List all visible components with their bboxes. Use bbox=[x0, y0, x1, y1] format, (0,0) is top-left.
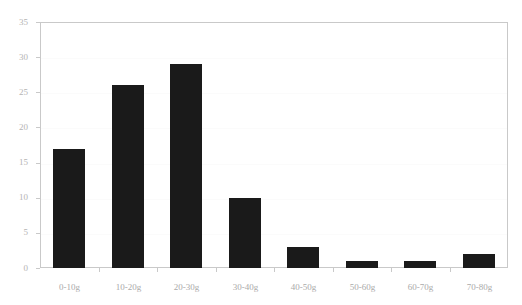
y-axis-tick-labels: 05101520253035 bbox=[0, 0, 36, 305]
gridline bbox=[41, 234, 507, 235]
gridline bbox=[41, 128, 507, 129]
x-axis-tick-mark bbox=[216, 268, 217, 272]
x-axis-tick-label: 10-20g bbox=[99, 283, 158, 292]
x-axis-tick-label: 40-50g bbox=[274, 283, 333, 292]
gridline bbox=[41, 164, 507, 165]
x-axis-tick-label: 0-10g bbox=[40, 283, 99, 292]
x-axis-tick-label: 70-80g bbox=[450, 283, 509, 292]
bar-chart: 05101520253035 0-10g10-20g20-30g30-40g40… bbox=[0, 0, 522, 305]
x-axis-tick-label: 50-60g bbox=[333, 283, 392, 292]
x-axis-tick-mark bbox=[99, 268, 100, 272]
x-axis-tick-mark bbox=[450, 268, 451, 272]
x-axis-tick-label: 30-40g bbox=[216, 283, 275, 292]
x-axis-tick-label: 60-70g bbox=[391, 283, 450, 292]
x-axis-tick-mark bbox=[333, 268, 334, 272]
y-axis-tick-label: 30 bbox=[19, 53, 28, 62]
gridline bbox=[41, 58, 507, 59]
gridline bbox=[41, 93, 507, 94]
y-axis-tick-label: 10 bbox=[19, 193, 28, 202]
y-axis-tick-label: 35 bbox=[19, 18, 28, 27]
y-axis-tick-label: 0 bbox=[24, 264, 29, 273]
x-axis-tick-mark bbox=[157, 268, 158, 272]
y-axis-tick-label: 25 bbox=[19, 88, 28, 97]
x-axis-tick-mark bbox=[274, 268, 275, 272]
x-axis-tick-mark bbox=[391, 268, 392, 272]
x-axis-tick-label: 20-30g bbox=[157, 283, 216, 292]
gridline bbox=[41, 199, 507, 200]
y-axis-tick-label: 20 bbox=[19, 123, 28, 132]
y-axis-tick-label: 5 bbox=[24, 228, 29, 237]
y-axis-tick-label: 15 bbox=[19, 158, 28, 167]
plot-area bbox=[40, 22, 508, 268]
y-axis-tick-mark bbox=[36, 268, 40, 269]
